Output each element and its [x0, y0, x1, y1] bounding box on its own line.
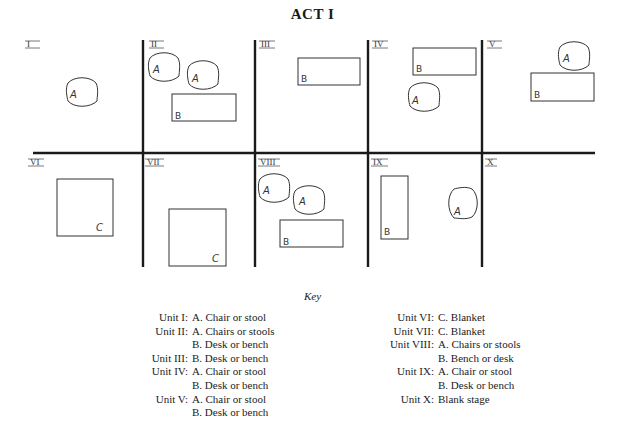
key-row: B. Desk or bench — [98, 406, 275, 420]
unit-IV-desk-b: B — [413, 48, 476, 75]
key-row: Unit VIII:A. Chairs or stools — [356, 338, 521, 352]
key-right-column: Unit VI:C. Blanket Unit VII:C. Blanket U… — [356, 311, 521, 406]
svg-text:III: III — [261, 39, 270, 49]
svg-text:A: A — [152, 64, 160, 75]
svg-text:A: A — [262, 185, 270, 196]
key-row: B. Desk or bench — [98, 338, 275, 352]
unit-label-V: V — [487, 39, 502, 49]
unit-label-VII: VII — [145, 157, 164, 167]
svg-text:B: B — [534, 90, 540, 100]
svg-text:VIII: VIII — [260, 157, 276, 167]
unit-I-chair-a: A — [66, 78, 97, 107]
unit-III-desk-b: B — [298, 58, 360, 85]
key-row: B. Desk or bench — [356, 379, 521, 393]
unit-label-I: I — [25, 39, 40, 49]
key-row: Unit X:Blank stage — [356, 393, 521, 407]
key-row: Unit IV:A. Chair or stool — [98, 365, 275, 379]
unit-label-X: X — [485, 157, 497, 167]
key-left-column: Unit I:A. Chair or stool Unit II:A. Chai… — [98, 311, 275, 420]
unit-label-IV: IV — [372, 39, 388, 49]
unit-label-III: III — [259, 39, 275, 49]
unit-VIII-bench-b: B — [280, 220, 343, 247]
unit-II-desk-b: B — [172, 94, 236, 121]
key-row: Unit VI:C. Blanket — [356, 311, 521, 325]
key-row: Unit IX:A. Chair or stool — [356, 365, 521, 379]
key-row: Unit V:A. Chair or stool — [98, 393, 275, 407]
unit-label-VIII: VIII — [258, 157, 280, 167]
unit-II-chair-a-2: A — [187, 61, 218, 90]
svg-text:A: A — [191, 73, 199, 84]
key-row: Unit VII:C. Blanket — [356, 325, 521, 339]
unit-VI-blanket-c: C — [57, 179, 113, 236]
unit-VIII-chair-a-1: A — [258, 174, 289, 203]
key-row: B. Desk or bench — [98, 379, 275, 393]
key-row: Unit II:A. Chairs or stools — [98, 325, 275, 339]
svg-text:V: V — [489, 39, 496, 49]
unit-VII-blanket-c: C — [169, 209, 226, 266]
svg-text:B: B — [175, 111, 181, 121]
svg-text:VI: VI — [30, 157, 40, 167]
key-row: B. Bench or desk — [356, 352, 521, 366]
svg-text:B: B — [301, 74, 307, 84]
svg-text:A: A — [298, 196, 306, 207]
unit-II-chair-a-1: A — [148, 53, 179, 82]
svg-text:II: II — [151, 39, 157, 49]
svg-text:A: A — [69, 89, 77, 100]
svg-text:IX: IX — [373, 157, 383, 167]
unit-V-desk-b: B — [531, 73, 594, 101]
svg-text:VII: VII — [147, 157, 160, 167]
key-row: Unit I:A. Chair or stool — [98, 311, 275, 325]
svg-text:X: X — [487, 157, 494, 167]
unit-IV-chair-a: A — [408, 83, 439, 112]
key-row: Unit III:B. Desk or bench — [98, 352, 275, 366]
svg-text:C: C — [96, 222, 103, 233]
key-title: Key — [0, 290, 625, 302]
unit-IX-chair-letter: A — [453, 206, 461, 217]
svg-text:IV: IV — [374, 39, 384, 49]
svg-text:B: B — [416, 64, 422, 74]
unit-label-VI: VI — [28, 157, 44, 167]
svg-text:A: A — [562, 53, 570, 64]
svg-text:I: I — [27, 39, 30, 49]
unit-IX-desk-b: B — [381, 176, 408, 239]
svg-text:B: B — [384, 227, 390, 237]
svg-text:A: A — [411, 95, 419, 106]
unit-label-II: II — [149, 39, 164, 49]
svg-text:C: C — [212, 253, 219, 264]
unit-V-chair-a: A — [558, 42, 589, 71]
stage-grid-diagram: I II III IV V VI VII VIII IX X A A A B B… — [0, 0, 625, 290]
unit-VIII-chair-a-2: A — [293, 186, 324, 215]
unit-label-IX: IX — [371, 157, 388, 167]
svg-text:B: B — [283, 237, 289, 247]
